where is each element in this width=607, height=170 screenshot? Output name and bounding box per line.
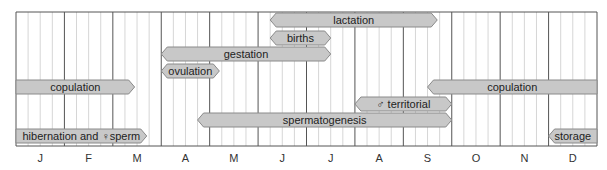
x-axis-labels: JFMAMJJASOND — [37, 152, 576, 164]
bar-label: storage — [554, 130, 591, 142]
bar-copulation: copulation — [428, 80, 597, 94]
bar-label: births — [287, 32, 314, 44]
bar-births: births — [270, 31, 331, 45]
month-label: J — [280, 152, 286, 164]
bar-label: lactation — [333, 14, 374, 26]
bar-hibernation-and-sperm: hibernation and ♀sperm — [16, 129, 147, 143]
bar-label: spermatogenesis — [283, 114, 367, 126]
bar-label: copulation — [50, 81, 100, 93]
reproductive-cycle-chart: lactationbirthsgestationovulationcopulat… — [0, 0, 607, 170]
month-label: J — [37, 152, 43, 164]
month-label: D — [569, 152, 577, 164]
month-label: M — [229, 152, 238, 164]
bar-spermatogenesis: spermatogenesis — [198, 113, 452, 127]
bar-gestation: gestation — [161, 47, 330, 61]
month-label: N — [520, 152, 528, 164]
month-label: S — [424, 152, 431, 164]
bar-storage: storage — [549, 129, 597, 143]
month-label: M — [132, 152, 141, 164]
bar-label: ovulation — [168, 65, 212, 77]
bar-ovulation: ovulation — [161, 64, 219, 78]
bar-label: hibernation and ♀sperm — [23, 130, 141, 142]
month-label: A — [182, 152, 190, 164]
bar-lactation: lactation — [270, 13, 437, 27]
month-label: F — [85, 152, 92, 164]
bar-label: copulation — [487, 81, 537, 93]
chart-canvas: lactationbirthsgestationovulationcopulat… — [0, 0, 607, 170]
bar-label: gestation — [224, 48, 269, 60]
bar-copulation: copulation — [16, 80, 135, 94]
bar--territorial: ♂ territorial — [355, 97, 452, 111]
month-label: A — [375, 152, 383, 164]
bar-label: ♂ territorial — [376, 98, 430, 110]
month-label: O — [472, 152, 481, 164]
month-label: J — [328, 152, 334, 164]
